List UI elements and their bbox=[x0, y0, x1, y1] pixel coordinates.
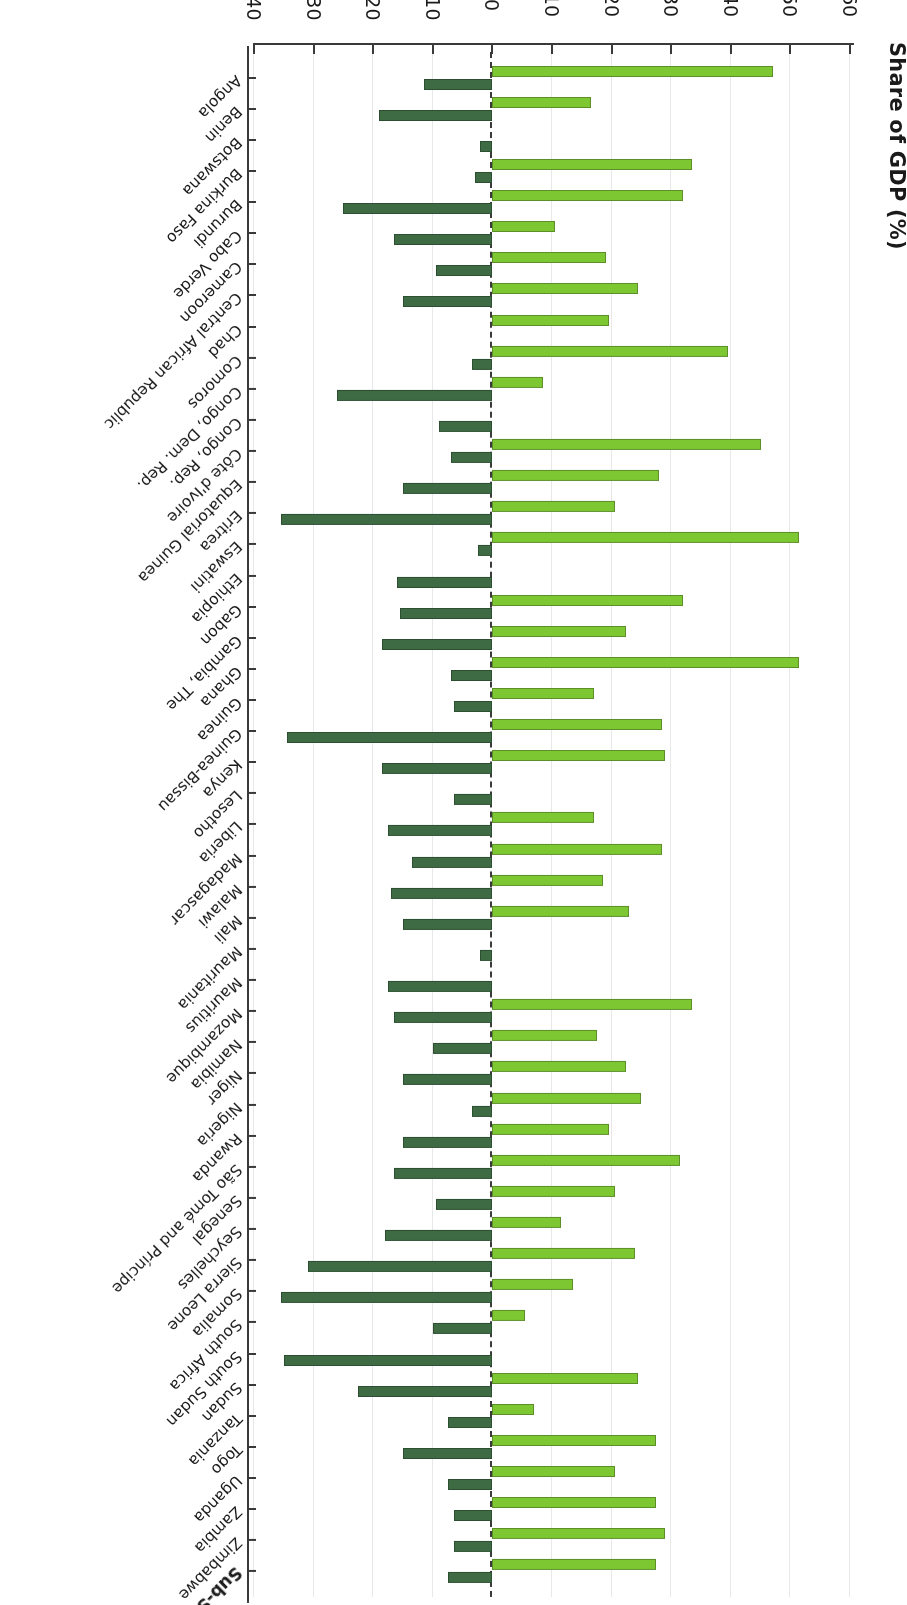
bar-light bbox=[492, 813, 593, 824]
category-tick bbox=[247, 1197, 256, 1199]
category-tick bbox=[247, 139, 256, 141]
bar-dark bbox=[385, 1230, 492, 1241]
bar-light bbox=[492, 906, 629, 917]
bar-dark bbox=[448, 1572, 493, 1583]
category-tick bbox=[247, 1072, 256, 1074]
bar-dark bbox=[403, 296, 492, 307]
bar-dark bbox=[400, 608, 492, 619]
bar-light bbox=[492, 1186, 614, 1197]
bar-light bbox=[492, 1466, 614, 1477]
bar-dark bbox=[388, 826, 492, 837]
bar-dark bbox=[284, 1355, 493, 1366]
category-tick bbox=[247, 170, 256, 172]
bar-dark bbox=[394, 1012, 492, 1023]
axis-tick-label: -10 bbox=[422, 0, 444, 35]
bar-dark bbox=[308, 1261, 493, 1272]
category-tick bbox=[247, 450, 256, 452]
category-tick bbox=[247, 1539, 256, 1541]
bar-dark bbox=[454, 794, 493, 805]
bar-light bbox=[492, 1310, 525, 1321]
bar-light bbox=[492, 626, 626, 637]
category-tick bbox=[247, 1353, 256, 1355]
bar-light bbox=[492, 1279, 572, 1290]
category-tick bbox=[247, 1446, 256, 1448]
bar-light bbox=[492, 66, 772, 77]
bar-light bbox=[492, 1497, 656, 1508]
axis-tick-label: 60 bbox=[839, 0, 861, 35]
bar-dark bbox=[454, 701, 493, 712]
category-tick bbox=[247, 481, 256, 483]
gridline bbox=[670, 52, 671, 1597]
bar-light bbox=[492, 1435, 656, 1446]
bar-dark bbox=[382, 763, 492, 774]
category-tick bbox=[247, 979, 256, 981]
bar-light bbox=[492, 875, 602, 886]
bar-light bbox=[492, 1217, 561, 1228]
category-tick bbox=[247, 1477, 256, 1479]
category-tick bbox=[247, 824, 256, 826]
bar-light bbox=[492, 1124, 608, 1135]
bar-light bbox=[492, 532, 799, 543]
category-tick bbox=[247, 699, 256, 701]
bar-dark bbox=[403, 1137, 492, 1148]
category-tick bbox=[247, 357, 256, 359]
category-tick bbox=[247, 606, 256, 608]
category-tick bbox=[247, 917, 256, 919]
bar-dark bbox=[388, 981, 492, 992]
category-tick bbox=[247, 948, 256, 950]
axis-tick bbox=[313, 43, 315, 54]
bar-light bbox=[492, 346, 727, 357]
category-tick bbox=[247, 1290, 256, 1292]
axis-tick bbox=[432, 43, 434, 54]
bar-light bbox=[492, 1559, 656, 1570]
category-tick bbox=[247, 543, 256, 545]
axis-tick bbox=[849, 43, 851, 54]
bar-dark bbox=[436, 1199, 493, 1210]
gridline bbox=[789, 52, 790, 1597]
category-tick bbox=[247, 1570, 256, 1572]
category-tick bbox=[247, 263, 256, 265]
bar-light bbox=[492, 1155, 680, 1166]
bar-light bbox=[492, 252, 605, 263]
bar-dark bbox=[481, 141, 493, 152]
bar-dark bbox=[448, 1417, 493, 1428]
bar-dark bbox=[343, 203, 492, 214]
axis-tick bbox=[730, 43, 732, 54]
category-tick bbox=[247, 108, 256, 110]
bar-dark bbox=[403, 919, 492, 930]
bar-dark bbox=[439, 421, 493, 432]
bar-light bbox=[492, 719, 662, 730]
plot-area: 6050403020100-10-20-30-40AngolaBeninBots… bbox=[254, 52, 850, 1597]
value-axis-line bbox=[254, 43, 854, 45]
bar-dark bbox=[379, 110, 492, 121]
bar-dark bbox=[281, 1292, 493, 1303]
bar-dark bbox=[478, 545, 493, 556]
bar-light bbox=[492, 844, 662, 855]
category-tick bbox=[247, 1228, 256, 1230]
axis-tick bbox=[491, 43, 493, 54]
bar-dark bbox=[472, 1106, 493, 1117]
bar-light bbox=[492, 999, 692, 1010]
bar-light bbox=[492, 1030, 596, 1041]
bar-dark bbox=[403, 483, 492, 494]
category-tick bbox=[247, 419, 256, 421]
category-tick bbox=[247, 1166, 256, 1168]
axis-tick-label: 40 bbox=[720, 0, 742, 35]
bar-dark bbox=[433, 1323, 493, 1334]
bar-dark bbox=[287, 732, 493, 743]
axis-tick-label: 50 bbox=[779, 0, 801, 35]
category-tick bbox=[247, 886, 256, 888]
bar-light bbox=[492, 470, 659, 481]
bar-dark bbox=[436, 265, 493, 276]
axis-tick-label: 20 bbox=[601, 0, 623, 35]
bar-dark bbox=[424, 79, 493, 90]
axis-tick bbox=[611, 43, 613, 54]
bar-light bbox=[492, 1373, 638, 1384]
bar-dark bbox=[382, 639, 492, 650]
axis-tick bbox=[789, 43, 791, 54]
axis-tick bbox=[551, 43, 553, 54]
category-label: Sub-Saharan Africa bbox=[101, 1563, 246, 1605]
category-tick bbox=[247, 1415, 256, 1417]
bar-dark bbox=[397, 577, 492, 588]
bar-light bbox=[492, 159, 692, 170]
